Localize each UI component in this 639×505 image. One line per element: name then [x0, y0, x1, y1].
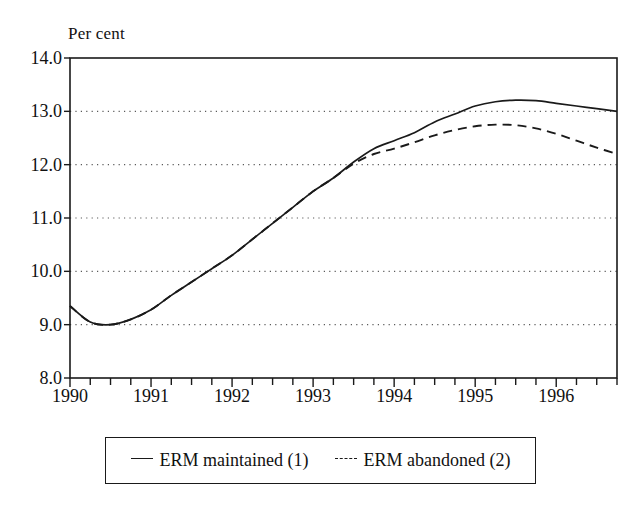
legend-item-label: ERM abandoned (2)	[364, 450, 511, 471]
legend-item-label: ERM maintained (1)	[160, 450, 309, 471]
x-axis-tick-label: 1993	[295, 386, 331, 407]
y-axis-tick-labels: 8.09.010.011.012.013.014.0	[0, 0, 62, 505]
x-axis-tick-label: 1996	[538, 386, 574, 407]
chart-figure: Per cent 8.09.010.011.012.013.014.0 1990…	[0, 0, 639, 505]
y-axis-tick-label: 14.0	[31, 48, 63, 69]
series-line	[70, 100, 617, 325]
series-line	[70, 125, 617, 325]
x-axis-tick-label: 1990	[52, 386, 88, 407]
x-axis-tick-label: 1992	[214, 386, 250, 407]
chart-legend: ERM maintained (1)ERM abandoned (2)	[105, 437, 536, 484]
line-chart-plot	[0, 0, 639, 505]
x-axis-tick-label: 1994	[376, 386, 412, 407]
x-axis-tick-label: 1991	[133, 386, 169, 407]
legend-item[interactable]: ERM abandoned (2)	[335, 450, 511, 471]
legend-item[interactable]: ERM maintained (1)	[131, 450, 309, 471]
y-axis-tick-label: 12.0	[31, 154, 63, 175]
dashed-line-icon	[335, 458, 357, 459]
x-axis-tick-label: 1995	[457, 386, 493, 407]
y-axis-tick-label: 11.0	[31, 208, 62, 229]
y-axis-tick-label: 10.0	[31, 261, 63, 282]
solid-line-icon	[131, 458, 153, 459]
y-axis-tick-label: 13.0	[31, 101, 63, 122]
y-axis-tick-label: 9.0	[40, 314, 63, 335]
